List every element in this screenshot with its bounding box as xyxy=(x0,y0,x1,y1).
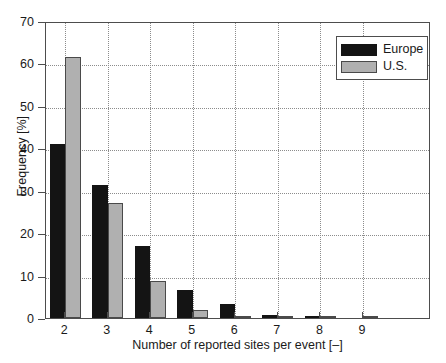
y-axis-tick-label: 30 xyxy=(4,186,34,199)
bar-us-3 xyxy=(108,203,124,318)
y-axis-tick-mark xyxy=(38,149,45,150)
y-axis-tick-mark xyxy=(38,22,45,23)
gridline-vertical xyxy=(235,23,236,318)
legend-label: U.S. xyxy=(383,60,407,73)
y-axis-tick-label: 60 xyxy=(4,58,34,71)
y-axis-tick-mark xyxy=(38,319,45,320)
bar-us-2 xyxy=(65,57,81,318)
x-axis-tick-mark xyxy=(149,312,150,319)
gridline-horizontal xyxy=(46,150,429,151)
y-axis-tick-mark xyxy=(38,64,45,65)
bar-us-8 xyxy=(320,316,336,318)
x-axis-tick-label: 9 xyxy=(350,324,374,337)
bar-europe-7 xyxy=(262,315,278,318)
legend-swatch-icon xyxy=(341,44,377,56)
y-axis-tick-label: 10 xyxy=(4,271,34,284)
x-axis-tick-mark xyxy=(319,312,320,319)
x-axis-tick-mark xyxy=(192,312,193,319)
x-axis-tick-label: 3 xyxy=(95,324,119,337)
x-axis-tick-label: 7 xyxy=(265,324,289,337)
bar-us-4 xyxy=(150,281,166,318)
x-axis-tick-mark xyxy=(107,312,108,319)
y-axis-tick-mark xyxy=(38,277,45,278)
x-axis-tick-label: 4 xyxy=(137,324,161,337)
x-axis-tick-mark xyxy=(64,312,65,319)
gridline-vertical xyxy=(320,23,321,318)
x-axis-tick-mark xyxy=(362,312,363,319)
y-axis-tick-label: 70 xyxy=(4,16,34,29)
legend-label: Europe xyxy=(383,43,423,56)
y-axis-tick-mark xyxy=(38,107,45,108)
bar-us-5 xyxy=(193,310,209,318)
x-axis-tick-mark xyxy=(277,312,278,319)
bar-europe-3 xyxy=(92,185,108,318)
x-axis-title: Number of reported sites per event [–] xyxy=(45,339,430,352)
legend-item: U.S. xyxy=(341,58,422,75)
bar-us-9 xyxy=(363,316,379,318)
bar-europe-4 xyxy=(135,246,151,318)
bar-europe-5 xyxy=(177,290,193,318)
bar-us-7 xyxy=(278,316,294,318)
bar-europe-6 xyxy=(220,304,236,318)
x-axis-tick-label: 6 xyxy=(222,324,246,337)
y-axis-tick-mark xyxy=(38,192,45,193)
legend-swatch-icon xyxy=(341,61,377,73)
bar-europe-8 xyxy=(305,316,321,318)
y-axis-tick-label: 20 xyxy=(4,228,34,241)
y-axis-tick-label: 50 xyxy=(4,101,34,114)
bar-us-6 xyxy=(235,316,251,318)
gridline-vertical xyxy=(193,23,194,318)
x-axis-tick-label: 2 xyxy=(52,324,76,337)
y-axis-tick-label: 0 xyxy=(4,313,34,326)
x-axis-tick-label: 5 xyxy=(180,324,204,337)
chart-legend: EuropeU.S. xyxy=(336,36,428,80)
gridline-horizontal xyxy=(46,108,429,109)
y-axis-tick-label: 40 xyxy=(4,143,34,156)
x-axis-tick-mark xyxy=(234,312,235,319)
gridline-vertical xyxy=(150,23,151,318)
x-axis-tick-label: 8 xyxy=(307,324,331,337)
y-axis-tick-mark xyxy=(38,234,45,235)
legend-item: Europe xyxy=(341,41,422,58)
bar-europe-2 xyxy=(50,144,66,318)
figure-bar-chart: Frequency [%] 010203040506070 23456789 N… xyxy=(0,0,446,363)
gridline-vertical xyxy=(278,23,279,318)
